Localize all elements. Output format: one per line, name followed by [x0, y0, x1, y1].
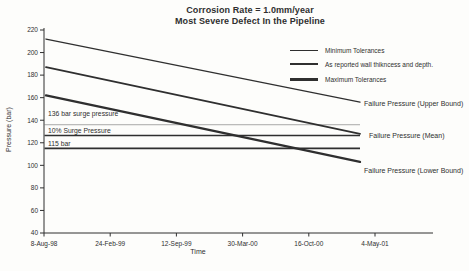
legend-label: Maximum Tolerances	[325, 76, 386, 83]
legend-item-as-reported: As reported wall thikncess and depth.	[290, 55, 433, 67]
y-tick-label: 120	[27, 139, 38, 146]
annotation-136-bar-surge-pressure: 136 bar surge pressure	[48, 110, 118, 117]
x-tick-label-24-feb-99: 24-Feb-99	[95, 240, 125, 247]
x-tick-label-8-aug-98: 8-Aug-98	[31, 240, 58, 248]
y-tick-label: 40	[31, 229, 39, 236]
legend-item-minimum-tolerances: Minimum Tolerances	[290, 41, 384, 53]
legend-line-sample-medium	[290, 63, 318, 65]
legend-label: Minimum Tolerances	[325, 47, 384, 54]
y-tick-label: 140	[27, 117, 38, 124]
annotation-10pct-surge-pressure: 10% Surge Pressure	[48, 127, 111, 134]
corrosion-chart-screen: Corrosion Rate = 1.0mm/year Most Severe …	[0, 0, 469, 271]
legend-item-maximum-tolerances: Maximum Tolerances	[290, 70, 386, 82]
x-tick-label-4-may-01: 4-May-01	[361, 240, 389, 248]
x-tick-label-16-oct-00: 16-Oct-00	[294, 240, 323, 247]
legend-line-sample-thick	[290, 78, 318, 81]
y-tick-label: 80	[31, 184, 39, 191]
y-tick-label: 100	[27, 162, 38, 169]
y-tick-label: 160	[27, 94, 38, 101]
x-tick-label-30-mar-00: 30-Mar-00	[228, 240, 258, 247]
y-tick-label: 220	[27, 26, 38, 33]
series-end-label-upper-bound: Failure Pressure (Upper Bound)	[364, 100, 463, 107]
y-tick-label: 200	[27, 49, 38, 56]
annotation-115-bar: 115 bar	[48, 140, 71, 147]
x-axis-title: Time	[170, 248, 226, 255]
series-end-label-lower-bound: Failure Pressure (Lower Bound)	[364, 167, 463, 174]
x-tick-label-12-sep-99: 12-Sep-99	[161, 240, 192, 248]
y-tick-label: 60	[31, 207, 39, 214]
legend-line-sample-thin	[290, 50, 318, 51]
legend-label: As reported wall thikncess and depth.	[325, 61, 433, 68]
y-tick-label: 180	[27, 71, 38, 78]
series-end-label-mean: Failure Pressure (Mean)	[369, 132, 444, 139]
